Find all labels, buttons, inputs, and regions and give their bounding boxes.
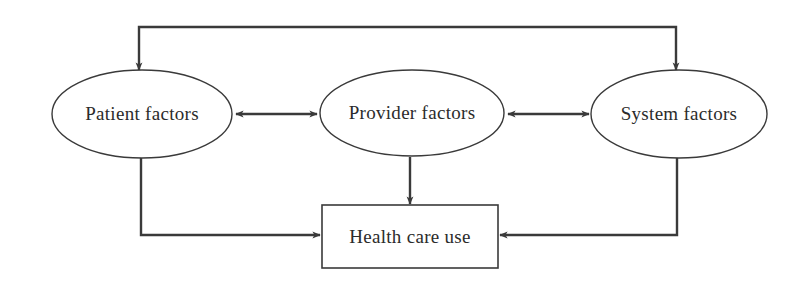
diagram-graphics — [0, 0, 809, 297]
edge-system-health-care-use — [500, 157, 677, 235]
node-system-factors[interactable] — [591, 70, 767, 158]
node-provider-factors[interactable] — [320, 70, 504, 156]
node-health-care-use[interactable] — [322, 205, 498, 268]
diagram-canvas: Patient factors Provider factors System … — [0, 0, 809, 297]
edge-patient-health-care-use — [141, 157, 320, 235]
edge-system-patient-top — [139, 27, 676, 70]
node-patient-factors[interactable] — [52, 70, 232, 158]
